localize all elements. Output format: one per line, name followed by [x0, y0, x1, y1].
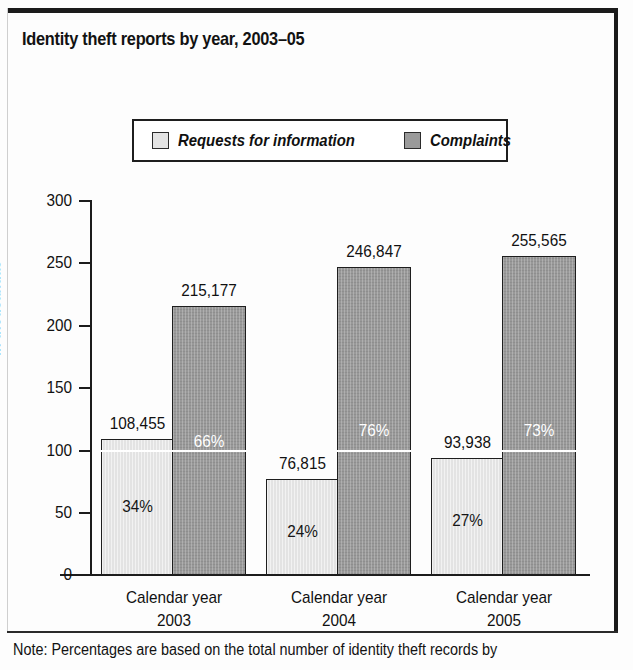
y-tick-label-150: 150 — [32, 378, 72, 398]
y-tick-label-0: 0 — [32, 565, 72, 585]
y-tick-label-200: 200 — [32, 316, 72, 336]
x-category-line2-2005: 2005 — [487, 611, 521, 630]
chart-legend: Requests for information Complaints — [132, 119, 508, 162]
x-category-line1-2005: Calendar year — [456, 588, 552, 607]
bar-percent-2003-requests: 34% — [105, 497, 171, 517]
bar-percent-2005-requests: 27% — [435, 511, 501, 531]
reference-line-100-group-2003 — [101, 450, 246, 452]
reference-line-100-group-2004 — [337, 450, 411, 452]
y-tick-label-250: 250 — [32, 253, 72, 273]
bar-value-2005-requests: 93,938 — [424, 433, 511, 453]
bar-value-2003-complaints: 215,177 — [162, 281, 256, 301]
page-title: Identity theft reports by year, 2003–05 — [22, 28, 304, 50]
y-tick-label-100: 100 — [32, 441, 72, 461]
y-tick-mark-100 — [79, 450, 91, 452]
bar-2005-complaints[interactable] — [502, 256, 576, 575]
legend-label-requests-for-information: Requests for information — [178, 132, 355, 150]
chart-footnote: Note: Percentages are based on the total… — [13, 641, 497, 659]
y-tick-mark-150 — [79, 387, 91, 389]
bar-value-2004-complaints: 246,847 — [327, 242, 421, 262]
legend-item-complaints[interactable]: Complaints — [404, 132, 517, 150]
frame-top-rule — [7, 8, 618, 13]
y-tick-mark-250 — [79, 262, 91, 264]
frame-right-rule — [614, 8, 618, 632]
legend-item-requests-for-information[interactable]: Requests for information — [152, 132, 368, 150]
x-category-line2-2004: 2004 — [322, 611, 356, 630]
legend-swatch-icon-light — [152, 132, 169, 149]
y-tick-mark-0 — [79, 574, 91, 576]
legend-label-complaints: Complaints — [430, 132, 511, 150]
bar-percent-2005-complaints: 73% — [506, 421, 573, 441]
x-category-label-2005: Calendar year 2005 — [430, 586, 578, 632]
bar-value-2004-requests: 76,815 — [259, 454, 346, 474]
legend-row: Requests for information Complaints — [134, 121, 506, 160]
x-category-line1-2003: Calendar year — [126, 588, 222, 607]
x-category-label-2003: Calendar year 2003 — [100, 586, 248, 632]
bar-value-2003-requests: 108,455 — [91, 414, 184, 434]
reference-line-100-group-2005 — [502, 450, 576, 452]
y-axis-title: In thousandas — [0, 261, 4, 356]
chart-figure: Identity theft reports by year, 2003–05 … — [0, 0, 633, 670]
x-category-line2-2003: 2003 — [157, 611, 191, 630]
y-tick-mark-50 — [79, 512, 91, 514]
legend-swatch-icon-dark — [404, 132, 421, 149]
y-tick-label-50: 50 — [32, 503, 72, 523]
frame-left-rule — [7, 8, 8, 632]
x-category-label-2004: Calendar year 2004 — [265, 586, 413, 632]
y-tick-mark-300 — [79, 200, 91, 202]
y-tick-label-300: 300 — [32, 191, 72, 211]
y-tick-mark-200 — [79, 325, 91, 327]
bar-percent-2004-requests: 24% — [270, 522, 336, 542]
bar-value-2005-complaints: 255,565 — [492, 231, 586, 251]
bar-percent-2004-complaints: 76% — [341, 421, 408, 441]
bar-percent-2003-complaints: 66% — [176, 432, 243, 452]
x-category-line1-2004: Calendar year — [291, 588, 387, 607]
